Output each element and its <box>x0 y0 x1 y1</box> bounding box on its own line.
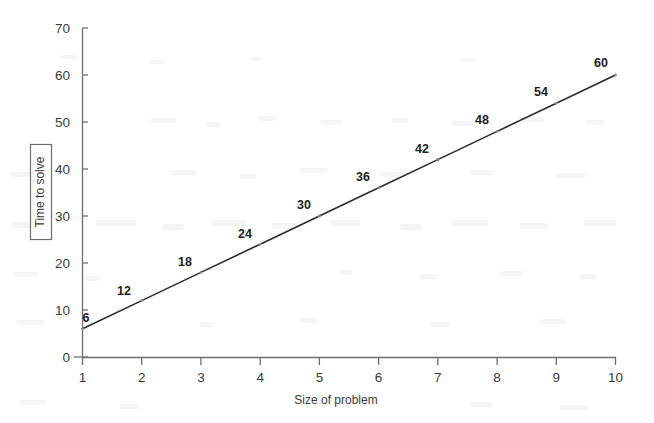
y-tick-label-70: 70 <box>55 21 70 36</box>
data-point-2 <box>140 299 143 302</box>
x-tick-label-6: 6 <box>375 370 383 385</box>
y-tick-label-50: 50 <box>55 115 70 130</box>
y-tick-label-60: 60 <box>55 68 70 83</box>
x-tick-label-8: 8 <box>493 370 501 385</box>
data-point-10 <box>614 74 617 77</box>
y-axis-title: Time to solve <box>33 156 47 227</box>
y-axis-title-group: Time to solve <box>31 145 52 240</box>
data-label-2: 12 <box>117 284 131 298</box>
data-label-1: 6 <box>83 311 90 325</box>
data-label-10: 60 <box>594 56 608 70</box>
data-label-7: 42 <box>415 142 429 156</box>
data-point-3 <box>200 271 203 274</box>
data-label-3: 18 <box>178 255 192 269</box>
data-label-9: 54 <box>534 85 548 99</box>
data-label-8: 48 <box>475 113 489 127</box>
data-point-6 <box>377 186 380 189</box>
x-tick-label-9: 9 <box>553 370 561 385</box>
data-point-4 <box>259 243 262 246</box>
y-tick-label-40: 40 <box>55 162 70 177</box>
line-chart: 70 60 50 40 30 20 10 0 1 2 3 4 5 <box>0 0 654 423</box>
y-tick-label-20: 20 <box>55 256 70 271</box>
data-point-7 <box>436 158 440 162</box>
y-tick-label-0: 0 <box>62 350 70 365</box>
data-label-6: 36 <box>356 170 370 184</box>
x-tick-label-3: 3 <box>197 370 205 385</box>
x-axis-title: Size of problem <box>294 393 377 407</box>
data-label-5: 30 <box>297 198 311 212</box>
data-label-4: 24 <box>238 227 252 241</box>
x-tick-label-2: 2 <box>138 370 146 385</box>
x-tick-label-10: 10 <box>608 370 623 385</box>
chart-container: 70 60 50 40 30 20 10 0 1 2 3 4 5 <box>0 0 654 423</box>
x-tick-label-1: 1 <box>79 370 87 385</box>
data-point-9 <box>555 102 558 105</box>
x-tick-label-7: 7 <box>434 370 442 385</box>
data-point-1 <box>81 327 84 330</box>
x-tick-label-4: 4 <box>256 370 264 385</box>
y-tick-label-10: 10 <box>55 303 70 318</box>
y-tick-label-30: 30 <box>55 209 70 224</box>
data-point-8 <box>496 130 499 133</box>
x-tick-label-5: 5 <box>316 370 324 385</box>
data-point-5 <box>318 215 321 218</box>
